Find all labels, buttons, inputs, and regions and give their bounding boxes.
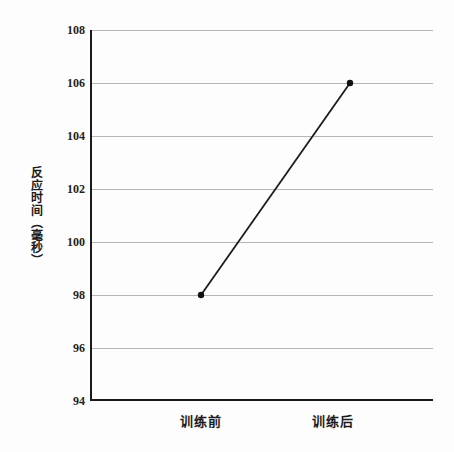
line-chart: 反应时间（毫秒） 949698100102104106108 训练前训练后 [0,0,454,452]
x-category-label-2: 训练后 [288,411,378,430]
data-point-marker-2 [347,80,353,86]
y-tick-label-108: 108 [36,23,85,37]
y-axis-title: 反应时间（毫秒） [27,166,44,266]
y-tick-label-104: 104 [36,129,85,143]
x-category-label-1: 训练前 [156,411,246,430]
y-tick-label-98: 98 [36,288,85,302]
y-tick-label-100: 100 [36,235,85,249]
data-line [201,83,350,295]
y-tick-label-106: 106 [36,76,85,90]
y-tick-label-96: 96 [36,341,85,355]
y-tick-label-102: 102 [36,182,85,196]
data-series-layer [90,30,433,401]
data-point-marker-1 [198,292,204,298]
y-tick-label-94: 94 [36,394,85,408]
